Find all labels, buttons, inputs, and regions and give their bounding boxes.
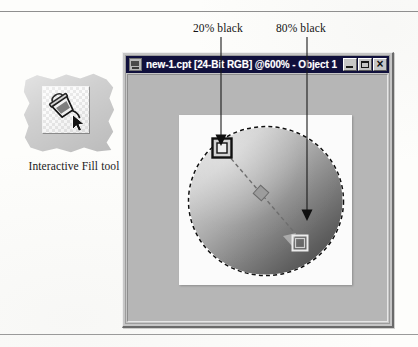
title-bar[interactable]: new-1.cpt [24-Bit RGB] @600% - Object 1 [126, 56, 389, 73]
minimize-button[interactable] [343, 58, 357, 71]
document-workspace[interactable] [127, 74, 388, 322]
page-rule-top [0, 11, 418, 12]
maximize-button[interactable] [358, 58, 372, 71]
figure-page: Interactive Fill tool 20% black 80% blac… [0, 0, 418, 347]
window-title-text: new-1.cpt [24-Bit RGB] @600% - Object 1 [146, 59, 342, 70]
image-canvas[interactable] [179, 115, 352, 285]
arrow-cursor-icon [73, 115, 85, 132]
page-rule-bottom [0, 334, 418, 335]
tool-cutout [22, 72, 116, 154]
paint-bucket-fill-icon[interactable] [42, 86, 90, 134]
close-button[interactable] [373, 58, 387, 71]
gradient-start-handle [213, 139, 232, 158]
photo-paint-window[interactable]: new-1.cpt [24-Bit RGB] @600% - Object 1 [122, 52, 394, 328]
photo-paint-document-icon [129, 58, 142, 71]
tool-caption: Interactive Fill tool [14, 160, 134, 172]
callout-label-end-node: 80% black [276, 22, 326, 34]
callout-label-start-node: 20% black [193, 22, 243, 34]
